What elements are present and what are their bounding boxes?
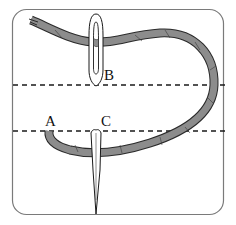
label-a: A bbox=[45, 113, 56, 129]
needle-b bbox=[89, 14, 103, 86]
stitch-diagram: B A C bbox=[0, 0, 236, 225]
label-b: B bbox=[104, 67, 114, 83]
label-c: C bbox=[101, 113, 111, 129]
